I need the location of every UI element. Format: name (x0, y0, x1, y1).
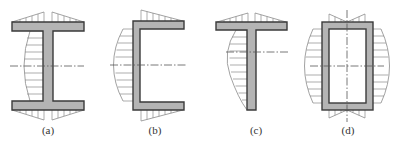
flange-shear-top (217, 13, 286, 22)
web-shear-parabola (227, 30, 247, 110)
flange-shear-top (12, 12, 84, 22)
flange-shear-bottom (12, 110, 84, 120)
panel-b-channel-section (110, 10, 186, 121)
flange-shear-bottom (141, 110, 183, 121)
panel-a-i-section (10, 12, 84, 120)
flange-shear-top (141, 10, 183, 21)
panel-label-c: (c) (250, 124, 262, 136)
t-section-shape (216, 22, 287, 110)
channel-section-shape (133, 21, 184, 110)
panel-label-b: (b) (149, 124, 162, 136)
panel-d-box-section (305, 10, 390, 122)
panel-label-a: (a) (42, 124, 54, 136)
panel-c-t-section (216, 13, 290, 110)
panel-label-d: (d) (342, 124, 355, 136)
